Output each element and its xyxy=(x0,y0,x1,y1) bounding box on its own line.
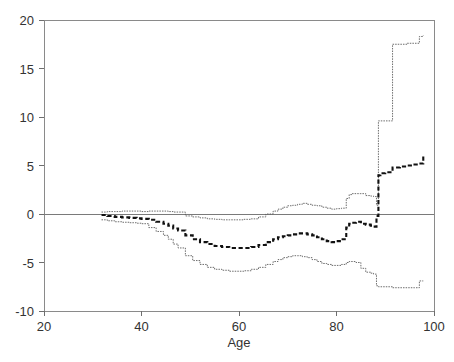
y-tick-label-neg5: -5 xyxy=(22,256,34,271)
caption-strip xyxy=(0,352,454,362)
plot-frame xyxy=(44,20,434,311)
x-axis-tick-labels: 20 40 60 80 100 xyxy=(37,319,445,334)
series-lower-confidence-bound xyxy=(102,220,424,288)
x-tick-label-100: 100 xyxy=(423,319,445,334)
x-axis-title: Age xyxy=(227,335,250,350)
x-tick-label-80: 80 xyxy=(329,319,343,334)
y-axis-tick-labels: 20 15 10 5 0 -5 -10 xyxy=(15,13,34,319)
x-tick-label-20: 20 xyxy=(37,319,51,334)
line-chart: 20 15 10 5 0 -5 -10 20 40 60 80 100 Age xyxy=(0,0,454,362)
series-group xyxy=(102,36,424,288)
y-tick-label-neg10: -10 xyxy=(15,304,34,319)
y-tick-label-0: 0 xyxy=(27,207,34,222)
x-axis-ticks xyxy=(44,311,434,316)
series-central-estimate xyxy=(102,156,424,248)
x-tick-label-40: 40 xyxy=(134,319,148,334)
y-axis-ticks xyxy=(39,20,44,311)
y-tick-label-5: 5 xyxy=(27,159,34,174)
y-tick-label-10: 10 xyxy=(20,110,34,125)
y-tick-label-20: 20 xyxy=(20,13,34,28)
x-tick-label-60: 60 xyxy=(232,319,246,334)
series-upper-confidence-bound xyxy=(102,36,424,220)
figure-container: 20 15 10 5 0 -5 -10 20 40 60 80 100 Age xyxy=(0,0,454,362)
y-tick-label-15: 15 xyxy=(20,62,34,77)
